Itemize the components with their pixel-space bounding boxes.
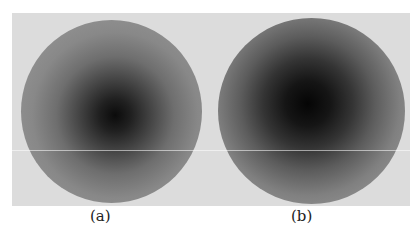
- disk-image-a: [21, 20, 202, 203]
- scan-artifact-line: [12, 150, 410, 151]
- disk-image-b: [218, 18, 405, 204]
- caption-a: (a): [90, 207, 111, 225]
- caption-b: (b): [291, 207, 312, 225]
